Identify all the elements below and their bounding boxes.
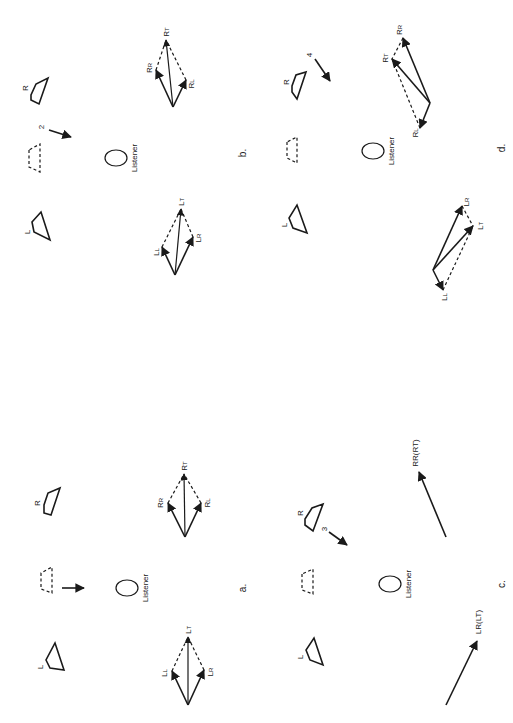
listener-label: Listener <box>387 136 396 165</box>
panel-label-c: c. <box>496 580 507 588</box>
right-speaker-icon <box>292 72 306 99</box>
right-vector-group: RR RT RL <box>381 24 430 137</box>
motion-arrow-2 <box>49 130 71 137</box>
label-LR-LT: LR(LT) <box>474 610 483 635</box>
panel-label-a: a. <box>237 584 248 592</box>
label-LR: LR <box>194 233 203 242</box>
left-vector-group: LL LR LT <box>160 626 215 705</box>
label-LL: LL <box>440 292 449 300</box>
label-LL: LL <box>152 247 161 255</box>
label-RL: RL <box>187 79 196 89</box>
listener-icon <box>105 150 127 166</box>
right-vector-group: RR RL RT <box>145 27 196 107</box>
label-LR: LR <box>206 667 215 676</box>
stereo-vector-diagram: R L 2 Listener RR RL RT <box>0 0 513 723</box>
label-RT: RT <box>180 461 189 471</box>
right-speaker-label: R <box>33 500 42 506</box>
label-LT: LT <box>476 222 485 230</box>
label-LT: LT <box>184 626 193 634</box>
phantom-center-speaker-icon <box>287 137 297 163</box>
label-RL: RL <box>203 498 212 508</box>
vector-RL <box>420 103 430 128</box>
left-vector-group: LL LR LT <box>152 198 203 275</box>
right-speaker-label: R <box>282 79 291 85</box>
phantom-center-speaker-icon <box>29 144 40 172</box>
listener-icon <box>379 576 401 592</box>
panel-c: R L 3 Listener RR(RT) LR(LT) c. <box>296 439 507 705</box>
motion-number-2: 2 <box>37 124 46 129</box>
vector-RT <box>166 40 173 107</box>
vector-LR <box>188 670 204 705</box>
vector-LR <box>433 206 462 270</box>
right-speaker-label: R <box>21 85 30 91</box>
listener-icon <box>116 580 138 596</box>
label-RR-RT: RR(RT) <box>411 439 420 467</box>
panel-b: R L 2 Listener RR RL RT <box>21 27 248 275</box>
left-speaker-icon <box>306 638 323 665</box>
vector-LT <box>433 226 473 270</box>
left-speaker-icon <box>32 212 50 240</box>
label-RR: RR <box>145 62 154 73</box>
label-LR: LR <box>462 197 471 206</box>
right-vector-group: RR RL RT <box>156 461 212 537</box>
vector-RL <box>173 80 186 107</box>
right-speaker-icon <box>44 488 60 515</box>
right-speaker-label: R <box>296 510 305 516</box>
left-speaker-label: L <box>280 222 289 227</box>
vector-LL <box>172 671 188 705</box>
listener-label: Listener <box>141 573 150 602</box>
motion-arrow-4 <box>315 59 330 81</box>
label-LL: LL <box>160 668 169 676</box>
listener-label: Listener <box>130 143 139 172</box>
label-RL: RL <box>411 128 420 138</box>
right-speaker-icon <box>31 78 48 104</box>
phantom-center-speaker-icon <box>41 567 52 593</box>
vector-RR-RT <box>419 472 446 537</box>
label-RT: RT <box>381 53 390 63</box>
left-speaker-icon <box>46 643 64 670</box>
vector-RR <box>156 70 173 107</box>
motion-number-3: 3 <box>320 526 329 531</box>
listener-icon <box>362 143 384 159</box>
vector-LR-LT <box>446 641 477 705</box>
label-RT: RT <box>162 27 171 37</box>
motion-arrow-3 <box>329 532 347 545</box>
label-LT: LT <box>177 198 186 206</box>
motion-number-4: 4 <box>305 52 314 57</box>
phantom-center-speaker-icon <box>302 569 313 594</box>
vector-LL <box>433 270 443 290</box>
vector-RT <box>184 474 185 537</box>
vector-RT <box>392 59 430 103</box>
listener-label: Listener <box>404 569 413 598</box>
left-speaker-label: L <box>23 229 32 234</box>
vector-RR <box>168 503 185 537</box>
vector-RR <box>403 38 430 103</box>
vector-RL <box>185 503 201 537</box>
panel-label-b: b. <box>237 149 248 157</box>
left-speaker-label: L <box>36 664 45 669</box>
label-RR: RR <box>156 497 165 508</box>
panel-a: R L Listener RR RL RT LL LR <box>33 461 248 705</box>
panel-d: R L 4 Listener RR RT RL LR <box>280 24 507 301</box>
panel-label-d: d. <box>496 144 507 152</box>
vector-LL <box>162 247 175 275</box>
left-speaker-icon <box>289 205 307 233</box>
left-speaker-label: L <box>296 654 305 659</box>
label-RR: RR <box>395 24 404 35</box>
left-vector-group: LR LT LL <box>433 197 485 301</box>
